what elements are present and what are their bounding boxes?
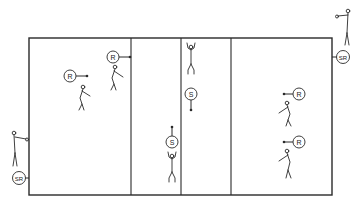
marker-label: R: [296, 91, 301, 98]
marker-label: SR: [15, 176, 24, 182]
marker-label: SR: [339, 55, 348, 61]
setter-figure-icon: [168, 152, 176, 182]
volleyball-drill-diagram: R R S S R R SR SR: [0, 0, 359, 207]
marker-label: R: [110, 54, 115, 61]
marker-sr2: SR: [13, 172, 30, 185]
setter-figure-icon: [187, 43, 195, 74]
court: [29, 38, 332, 195]
receiver-figure-icon: [279, 101, 291, 126]
marker-sr1: SR: [332, 51, 350, 64]
marker-label: R: [67, 73, 72, 80]
marker-r4: R: [284, 136, 305, 148]
marker-r3: R: [284, 88, 305, 100]
marker-s1: S: [185, 88, 197, 110]
marker-label: S: [170, 139, 175, 146]
receiver-figure-icon: [79, 85, 90, 110]
marker-s2: S: [166, 127, 178, 148]
marker-r1: R: [64, 70, 87, 82]
receiver-figure-icon: [111, 65, 123, 90]
server-figure-icon: [12, 131, 28, 166]
marker-label: S: [189, 91, 194, 98]
receiver-figure-icon: [279, 149, 291, 178]
marker-label: R: [296, 139, 301, 146]
marker-r2: R: [107, 51, 130, 63]
server-figure-icon: [336, 9, 350, 45]
